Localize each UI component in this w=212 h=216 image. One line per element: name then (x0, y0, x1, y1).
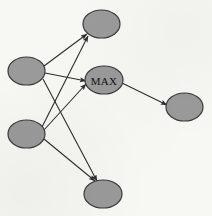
edge-source-bottom-to-max (44, 84, 86, 130)
node-label-max: MAX (91, 75, 117, 87)
node-target-top[interactable] (83, 10, 120, 38)
node-target-bottom[interactable] (84, 180, 122, 208)
node-shape-source-top (8, 57, 45, 85)
node-max[interactable]: MAX (85, 66, 123, 94)
node-shape-target-bottom (84, 180, 122, 208)
edge-layer (42, 34, 167, 181)
edge-max-to-output-right (122, 83, 167, 105)
node-source-bottom[interactable] (8, 120, 45, 148)
diagram-canvas: MAX (0, 0, 212, 216)
node-source-top[interactable] (8, 57, 45, 85)
node-shape-output-right (166, 93, 203, 121)
edge-source-top-to-target-bottom (43, 79, 97, 181)
node-output-right[interactable] (166, 93, 203, 121)
node-layer: MAX (8, 10, 203, 208)
node-shape-source-bottom (8, 120, 45, 148)
edge-source-bottom-to-target-top (42, 36, 88, 127)
node-shape-target-top (83, 10, 120, 38)
edge-source-bottom-to-target-bottom (44, 139, 95, 181)
graph-diagram: MAX (0, 0, 212, 216)
